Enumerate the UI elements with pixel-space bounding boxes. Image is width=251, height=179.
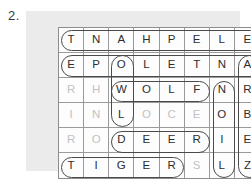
- grid-cell-r2c2[interactable]: P: [84, 53, 109, 78]
- grid-letter: I: [220, 134, 223, 146]
- grid-cell-r1c2[interactable]: N: [84, 28, 109, 53]
- grid-cell-r5c1[interactable]: R: [59, 128, 84, 153]
- grid-cell-r4c6[interactable]: E: [185, 103, 210, 128]
- grid-letter: L: [118, 109, 124, 121]
- grid-cell-r3c6[interactable]: F: [185, 78, 210, 103]
- grid-cell-r2c5[interactable]: E: [160, 53, 185, 78]
- grid-letter: O: [217, 109, 226, 121]
- grid-letter: N: [92, 34, 100, 46]
- grid-cell-r4c3[interactable]: L: [109, 103, 134, 128]
- grid-letter: E: [168, 59, 176, 71]
- grid-cell-r5c2[interactable]: O: [84, 128, 109, 153]
- grid-letter: E: [143, 160, 151, 172]
- grid-letter: P: [92, 59, 100, 71]
- grid-letter: P: [168, 34, 176, 46]
- grid-cell-r3c8[interactable]: R: [235, 78, 251, 103]
- grid-letter: R: [167, 160, 175, 172]
- grid-cell-r6c8[interactable]: Z: [235, 153, 251, 178]
- grid-cell-r1c3[interactable]: A: [109, 28, 134, 53]
- grid-letter: N: [218, 84, 226, 96]
- exercise-number: 2.: [8, 8, 20, 23]
- grid-cell-r2c1[interactable]: E: [59, 53, 84, 78]
- grid-cell-r2c8[interactable]: A: [235, 53, 251, 78]
- puzzle-panel: TNAHPELEEPOLETNARHWOLFNRINLOCEOBRODEERIE…: [26, 11, 240, 171]
- grid-letter: H: [142, 34, 150, 46]
- grid-cell-r1c5[interactable]: P: [160, 28, 185, 53]
- grid-letter: C: [167, 109, 175, 121]
- grid-cell-r4c7[interactable]: O: [210, 103, 235, 128]
- grid-letter: O: [117, 59, 126, 71]
- grid-letter: E: [168, 134, 176, 146]
- grid-cell-r1c6[interactable]: E: [185, 28, 210, 53]
- grid-cell-r6c3[interactable]: G: [109, 153, 134, 178]
- grid-letter: T: [193, 59, 200, 71]
- grid-letter: H: [92, 84, 100, 96]
- grid-cell-r3c5[interactable]: L: [160, 78, 185, 103]
- grid-cell-r3c1[interactable]: R: [59, 78, 84, 103]
- grid-cell-r5c8[interactable]: E: [235, 128, 251, 153]
- grid-letter: R: [67, 134, 75, 146]
- grid-cell-r4c4[interactable]: O: [134, 103, 159, 128]
- grid-letter: Z: [244, 160, 251, 172]
- grid-letter: G: [117, 160, 126, 172]
- grid-letter: S: [193, 160, 201, 172]
- word-search-grid[interactable]: TNAHPELEEPOLETNARHWOLFNRINLOCEOBRODEERIE…: [58, 27, 251, 179]
- grid-letter: I: [69, 109, 72, 121]
- grid-cell-r2c6[interactable]: T: [185, 53, 210, 78]
- grid-letter: L: [143, 59, 149, 71]
- grid-letter: R: [243, 84, 251, 96]
- grid-cell-r4c1[interactable]: I: [59, 103, 84, 128]
- grid-letter: T: [68, 34, 75, 46]
- grid-cell-r1c1[interactable]: T: [59, 28, 84, 53]
- grid-letter: E: [67, 59, 75, 71]
- grid-letter: A: [117, 34, 125, 46]
- grid-letter: B: [244, 109, 251, 121]
- grid-letter: L: [168, 84, 174, 96]
- grid-cell-r2c7[interactable]: N: [210, 53, 235, 78]
- grid-letter: L: [219, 160, 225, 172]
- grid-cell-r5c5[interactable]: E: [160, 128, 185, 153]
- grid-letter: T: [68, 160, 75, 172]
- grid-letter: E: [244, 134, 251, 146]
- grid-letter: A: [244, 59, 251, 71]
- grid-letter: O: [92, 134, 101, 146]
- grid-cell-r3c2[interactable]: H: [84, 78, 109, 103]
- grid-cell-r4c5[interactable]: C: [160, 103, 185, 128]
- grid-letter: F: [193, 84, 200, 96]
- grid-letter: O: [142, 84, 151, 96]
- grid-cell-r6c6[interactable]: S: [185, 153, 210, 178]
- grid-cell-r4c2[interactable]: N: [84, 103, 109, 128]
- grid-cell-r1c7[interactable]: L: [210, 28, 235, 53]
- grid-cell-r6c7[interactable]: L: [210, 153, 235, 178]
- grid-cell-r6c4[interactable]: E: [134, 153, 159, 178]
- grid-cell-r6c5[interactable]: R: [160, 153, 185, 178]
- grid-cell-r5c3[interactable]: D: [109, 128, 134, 153]
- grid-letter: E: [244, 34, 251, 46]
- grid-cell-r4c8[interactable]: B: [235, 103, 251, 128]
- grid-cell-r6c2[interactable]: I: [84, 153, 109, 178]
- grid-cell-r2c3[interactable]: O: [109, 53, 134, 78]
- grid-letter: E: [193, 34, 201, 46]
- grid-cell-r2c4[interactable]: L: [134, 53, 159, 78]
- grid-letter: N: [218, 59, 226, 71]
- grid-cell-r1c4[interactable]: H: [134, 28, 159, 53]
- grid-letter: E: [143, 134, 151, 146]
- grid-letter: R: [67, 84, 75, 96]
- grid-cell-r3c7[interactable]: N: [210, 78, 235, 103]
- grid-cell-r5c4[interactable]: E: [134, 128, 159, 153]
- grid-cell-r3c3[interactable]: W: [109, 78, 134, 103]
- grid-cell-r5c7[interactable]: I: [210, 128, 235, 153]
- letter-grid: TNAHPELEEPOLETNARHWOLFNRINLOCEOBRODEERIE…: [59, 28, 251, 178]
- grid-letter: L: [219, 34, 225, 46]
- grid-letter: N: [92, 109, 100, 121]
- grid-letter: W: [116, 84, 127, 96]
- grid-cell-r3c4[interactable]: O: [134, 78, 159, 103]
- grid-cell-r6c1[interactable]: T: [59, 153, 84, 178]
- grid-letter: D: [117, 134, 125, 146]
- grid-cell-r1c8[interactable]: E: [235, 28, 251, 53]
- grid-letter: I: [95, 160, 98, 172]
- grid-letter: O: [142, 109, 151, 121]
- grid-letter: R: [193, 134, 201, 146]
- grid-cell-r5c6[interactable]: R: [185, 128, 210, 153]
- grid-letter: E: [193, 109, 201, 121]
